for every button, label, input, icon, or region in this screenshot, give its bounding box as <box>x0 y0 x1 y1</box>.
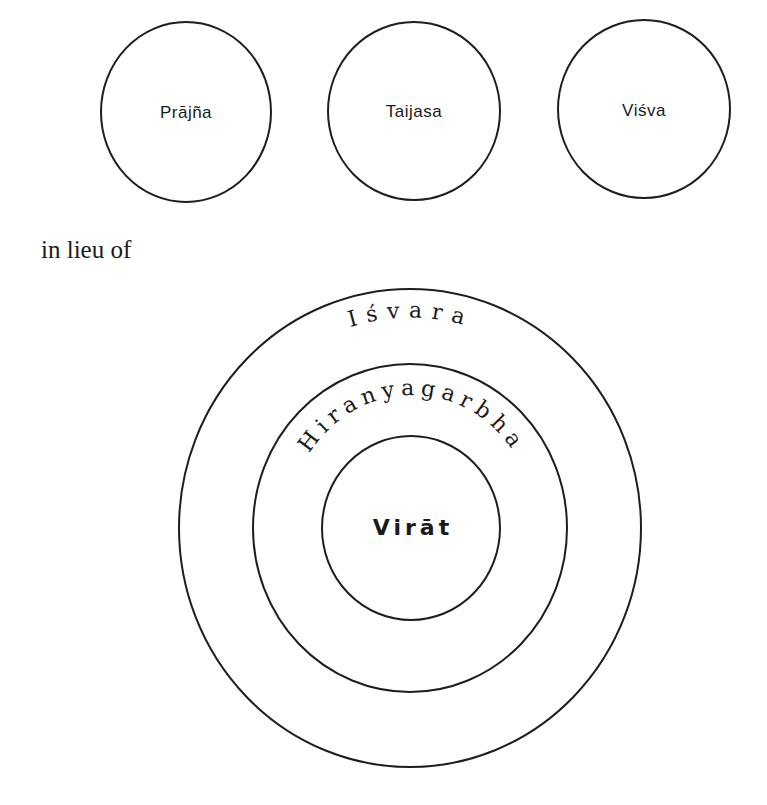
circle-taijasa: Taijasa <box>328 22 500 200</box>
circle-visva-label: Viśva <box>622 101 666 120</box>
outer-ring-label: Iśvara <box>345 297 477 332</box>
circle-prajna-label: Prājña <box>160 103 212 122</box>
outer-ring-label-path: Iśvara <box>345 297 477 332</box>
connector-text: in lieu of <box>41 236 132 263</box>
circle-taijasa-label: Taijasa <box>386 102 442 121</box>
top-row: Prājña Taijasa Viśva <box>101 20 730 202</box>
concentric-diagram: Iśvara Hiranyagarbha Virāt <box>179 289 641 767</box>
circle-prajna: Prājña <box>101 22 271 202</box>
diagram-canvas: Prājña Taijasa Viśva in lieu of Iśvara H… <box>0 0 767 805</box>
circle-visva: Viśva <box>558 20 730 198</box>
inner-ring-label: Virāt <box>373 515 453 540</box>
